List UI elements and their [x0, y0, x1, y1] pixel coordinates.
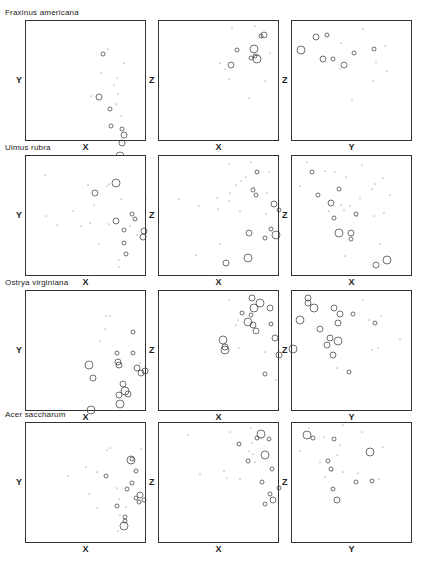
data-dot — [187, 434, 188, 435]
scatter-panel — [25, 155, 146, 276]
data-circle — [348, 230, 354, 236]
data-dot — [257, 53, 258, 54]
data-dot — [361, 164, 362, 165]
data-circle — [310, 170, 314, 174]
scatter-panel — [158, 290, 279, 411]
data-dot — [254, 461, 255, 462]
data-dot — [199, 473, 200, 474]
x-axis-label: X — [83, 142, 89, 152]
data-circle — [125, 487, 129, 491]
x-axis-label: X — [83, 544, 89, 554]
y-axis-label: Z — [149, 75, 155, 85]
data-circle — [104, 474, 108, 478]
data-circle — [90, 375, 96, 381]
species-title: Acer saccharum — [5, 410, 66, 419]
data-dot — [250, 161, 251, 162]
data-circle — [119, 140, 125, 146]
data-circle — [337, 187, 341, 191]
data-circle — [296, 316, 304, 324]
data-circle — [328, 200, 334, 206]
data-circle — [272, 231, 280, 239]
data-circle — [142, 498, 146, 502]
data-circle — [116, 400, 124, 408]
data-dot — [119, 514, 120, 515]
data-circle — [303, 431, 311, 439]
data-circle — [334, 337, 342, 345]
data-dot — [80, 225, 81, 226]
data-circle — [324, 342, 330, 348]
data-circle — [130, 457, 134, 461]
data-dot — [90, 95, 91, 96]
data-circle — [120, 522, 128, 530]
data-dot — [344, 255, 345, 256]
data-dot — [235, 184, 236, 185]
data-dot — [382, 446, 383, 447]
data-dot — [240, 180, 241, 181]
data-circle — [263, 372, 267, 376]
data-circle — [373, 262, 379, 268]
data-dot — [216, 197, 217, 198]
y-axis-label: Z — [282, 210, 288, 220]
data-dot — [228, 200, 229, 201]
data-dot — [56, 224, 57, 225]
data-dot — [386, 70, 387, 71]
data-circle — [255, 436, 259, 440]
data-circle — [140, 234, 146, 240]
data-circle — [261, 32, 267, 38]
data-dot — [239, 478, 240, 479]
species-title: Ostrya virginiana — [5, 278, 68, 287]
data-circle — [260, 480, 264, 484]
data-dot — [252, 453, 253, 454]
data-dot — [104, 328, 105, 329]
data-dot — [253, 186, 254, 187]
data-circle — [331, 487, 335, 491]
data-dot — [108, 183, 109, 184]
data-circle — [331, 305, 337, 311]
data-dot — [384, 45, 385, 46]
data-circle — [115, 504, 119, 508]
scatter-panel — [25, 422, 146, 543]
data-dot — [118, 266, 119, 267]
data-dot — [323, 436, 324, 437]
data-dot — [319, 461, 320, 462]
data-dot — [136, 234, 137, 235]
data-circle — [372, 47, 376, 51]
data-circle — [270, 467, 274, 471]
scatter-panel — [291, 422, 412, 543]
data-dot — [87, 184, 88, 185]
data-circle — [297, 46, 305, 54]
data-dot — [198, 205, 199, 206]
scatter-panel — [158, 155, 279, 276]
data-circle — [354, 212, 358, 216]
data-dot — [275, 379, 276, 380]
data-dot — [88, 493, 89, 494]
data-circle — [267, 305, 273, 311]
data-circle — [263, 236, 267, 240]
data-dot — [380, 315, 381, 316]
data-circle — [341, 62, 347, 68]
data-circle — [133, 217, 137, 221]
data-circle — [370, 479, 374, 483]
data-circle — [92, 190, 98, 196]
data-dot — [372, 80, 373, 81]
data-circle — [244, 318, 252, 326]
data-dot — [336, 367, 337, 368]
data-dot — [109, 447, 110, 448]
data-dot — [378, 478, 379, 479]
data-dot — [250, 427, 251, 428]
data-circle — [250, 45, 258, 53]
data-circle — [313, 34, 319, 40]
data-dot — [219, 243, 220, 244]
data-circle — [277, 486, 281, 490]
data-dot — [116, 487, 117, 488]
data-dot — [231, 27, 232, 28]
data-dot — [96, 471, 97, 472]
data-circle — [327, 335, 333, 341]
data-circle — [115, 351, 119, 355]
data-circle — [122, 228, 126, 232]
data-dot — [223, 470, 224, 471]
data-circle — [249, 313, 253, 317]
data-dot — [45, 215, 46, 216]
y-axis-label: Z — [149, 210, 155, 220]
data-dot — [228, 299, 229, 300]
